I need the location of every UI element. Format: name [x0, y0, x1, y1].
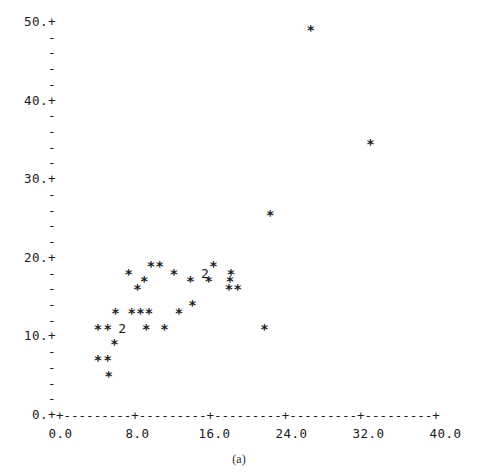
- x-axis-tick-labels: 0.08.016.024.032.040.0: [0, 426, 478, 442]
- data-point: *: [103, 370, 114, 383]
- data-point: *: [159, 323, 170, 336]
- data-point: *: [123, 268, 134, 281]
- x-axis-tick-label: 16.0: [192, 426, 238, 442]
- x-axis-line: +---------+---------+---------+---------…: [56, 409, 450, 423]
- data-point: *: [154, 260, 165, 273]
- data-point: *: [305, 24, 316, 37]
- x-axis-tick-label: 0.0: [38, 426, 84, 442]
- x-axis-tick-label: 32.0: [346, 426, 392, 442]
- data-point: *: [259, 323, 270, 336]
- scatter-plot-figure: 50.+----40.+----30.+----20.+----10.+----…: [0, 0, 478, 476]
- data-point: *: [141, 323, 152, 336]
- data-point: *: [365, 138, 376, 151]
- x-axis-tick-label: 24.0: [269, 426, 315, 442]
- figure-caption: (a): [0, 452, 478, 467]
- data-point: *: [187, 299, 198, 312]
- data-point: *: [203, 275, 214, 288]
- data-point: *: [102, 354, 113, 367]
- data-point: *: [169, 268, 180, 281]
- plot-data-area: ********2****************2*******: [0, 0, 478, 440]
- data-point: *: [102, 323, 113, 336]
- data-point: *: [110, 307, 121, 320]
- data-point-cluster: 2: [117, 322, 128, 335]
- x-axis-tick-label: 8.0: [115, 426, 161, 442]
- data-point: *: [144, 307, 155, 320]
- data-point: *: [232, 283, 243, 296]
- data-point: *: [173, 307, 184, 320]
- data-point: *: [265, 209, 276, 222]
- data-point: *: [185, 275, 196, 288]
- data-point: *: [132, 283, 143, 296]
- data-point: *: [109, 338, 120, 351]
- x-axis-tick-label: 40.0: [423, 426, 469, 442]
